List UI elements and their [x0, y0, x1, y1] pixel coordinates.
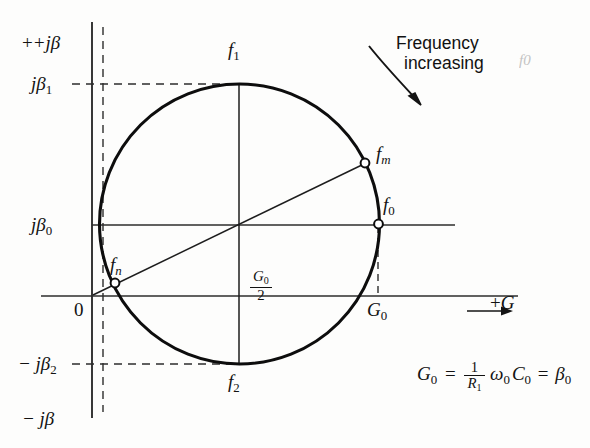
point-label-f2: f2 — [228, 372, 240, 395]
fraction-g0-over-2: G0 2 — [250, 269, 272, 303]
axis-label-positive-imaginary: ++jβ — [22, 33, 60, 52]
marker-fn — [111, 279, 120, 288]
point-label-fm: fm — [376, 144, 391, 167]
origin-label: 0 — [74, 300, 84, 319]
equation-g0: G0 = 1 R1 — [417, 360, 486, 394]
figure-page: ++jβ − jβ jβ1 jβ0 − jβ2 0 G0 G0 2 f1 fm … — [0, 0, 590, 448]
tick-label-minus-jbeta2: − jβ2 — [18, 354, 57, 377]
marker-f0 — [374, 220, 383, 229]
point-label-fn: fn — [110, 255, 122, 278]
frequency-increasing-annotation: Frequency increasing — [396, 33, 484, 73]
point-label-f0: f0 — [383, 195, 395, 218]
point-label-f1: f1 — [228, 40, 240, 63]
tick-label-g0: G0 — [367, 300, 387, 323]
fraction-numerator: G0 — [250, 269, 272, 287]
tick-label-g0-over-2: G0 2 — [249, 269, 273, 303]
annotation-line-1: Frequency — [396, 33, 484, 53]
fraction-one-over-r1: 1 R1 — [464, 360, 484, 394]
fn-fm-diagonal-chord — [93, 163, 366, 295]
equation-omega0-c0: ω0C0 = β0 — [490, 364, 571, 387]
tick-label-jbeta0: jβ0 — [31, 215, 52, 238]
axis-label-negative-imaginary: − jβ — [22, 409, 54, 428]
marker-fm — [361, 159, 370, 168]
axis-label-positive-g: +G — [490, 293, 514, 312]
scan-artifact-smudge: f0 — [519, 52, 531, 69]
fraction-denominator-r1: R1 — [464, 375, 484, 394]
annotation-line-2: increasing — [396, 53, 484, 73]
fraction-denominator: 2 — [250, 287, 272, 303]
frequency-increasing-arrowhead — [409, 93, 421, 105]
tick-label-jbeta1: jβ1 — [31, 74, 52, 97]
